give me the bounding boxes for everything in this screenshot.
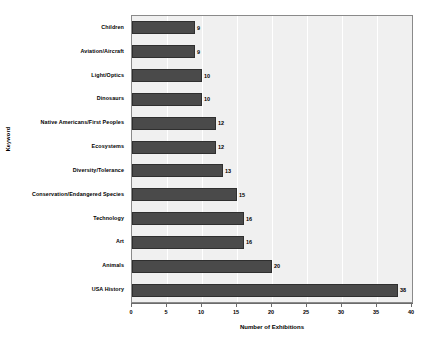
bar-row: 10 — [132, 64, 412, 88]
bar-value-label: 16 — [246, 239, 252, 245]
bar-value-label: 10 — [204, 96, 210, 102]
category-label: Native Americans/First Peoples — [41, 119, 124, 125]
bar-value-label: 13 — [225, 168, 231, 174]
bar-value-label: 9 — [197, 25, 200, 31]
bar-value-label: 10 — [204, 73, 210, 79]
bar-row: 16 — [132, 231, 412, 255]
bar-chart: Keyword ChildrenAviation/AircraftLight/O… — [0, 0, 440, 342]
x-tick-label: 15 — [233, 309, 239, 315]
bar-row: 9 — [132, 16, 412, 40]
x-tick — [411, 303, 412, 307]
x-tick — [131, 303, 132, 307]
x-tick-label: 5 — [164, 309, 167, 315]
bar-row: 20 — [132, 254, 412, 278]
bar-value-label: 12 — [218, 120, 224, 126]
x-tick — [341, 303, 342, 307]
x-tick-label: 25 — [303, 309, 309, 315]
x-tick-label: 40 — [408, 309, 414, 315]
bar-value-label: 9 — [197, 49, 200, 55]
bar-value-label: 38 — [400, 287, 406, 293]
category-label: Conservation/Endangered Species — [32, 191, 124, 197]
x-tick-label: 35 — [373, 309, 379, 315]
bar-row: 15 — [132, 183, 412, 207]
bar-series: 9910101212131516162038 — [132, 16, 412, 302]
x-tick-label: 10 — [198, 309, 204, 315]
category-axis-labels: ChildrenAviation/AircraftLight/OpticsDin… — [0, 15, 128, 303]
category-label: Ecosystems — [92, 143, 124, 149]
x-tick-label: 30 — [338, 309, 344, 315]
bar — [132, 69, 202, 82]
bar — [132, 117, 216, 130]
bar-value-label: 16 — [246, 216, 252, 222]
bar — [132, 93, 202, 106]
bar — [132, 141, 216, 154]
category-label: Dinosaurs — [97, 95, 124, 101]
bar — [132, 284, 398, 297]
bar-row: 12 — [132, 111, 412, 135]
category-label: Aviation/Aircraft — [81, 48, 124, 54]
category-label: Children — [101, 24, 124, 30]
bar — [132, 164, 223, 177]
bar — [132, 236, 244, 249]
bar-value-label: 12 — [218, 144, 224, 150]
bar-row: 38 — [132, 278, 412, 302]
x-axis-title: Number of Exhibitions — [131, 324, 413, 330]
category-label: USA History — [92, 286, 124, 292]
category-label: Technology — [93, 215, 124, 221]
x-tick-label: 0 — [129, 309, 132, 315]
bar — [132, 212, 244, 225]
x-axis-line — [131, 303, 413, 304]
bar-value-label: 20 — [274, 263, 280, 269]
bar-row: 10 — [132, 88, 412, 112]
x-tick — [271, 303, 272, 307]
bar — [132, 21, 195, 34]
category-label: Light/Optics — [91, 72, 124, 78]
bar-row: 16 — [132, 207, 412, 231]
x-tick-label: 20 — [268, 309, 274, 315]
bar — [132, 188, 237, 201]
x-tick — [201, 303, 202, 307]
category-label: Animals — [102, 262, 124, 268]
bar-row: 12 — [132, 135, 412, 159]
x-tick — [376, 303, 377, 307]
x-tick — [306, 303, 307, 307]
bar-value-label: 15 — [239, 192, 245, 198]
bar — [132, 260, 272, 273]
plot-area: 9910101212131516162038 — [131, 15, 413, 303]
bar-row: 13 — [132, 159, 412, 183]
bar — [132, 45, 195, 58]
x-tick — [236, 303, 237, 307]
category-label: Art — [116, 238, 124, 244]
category-label: Diversity/Tolerance — [73, 167, 124, 173]
bar-row: 9 — [132, 40, 412, 64]
x-tick — [166, 303, 167, 307]
